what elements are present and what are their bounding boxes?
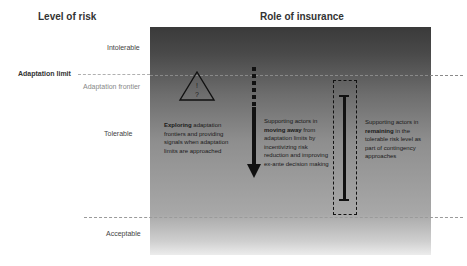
role-of-insurance-heading: Role of insurance <box>260 11 344 22</box>
role-remaining-prefix: Supporting actors in <box>365 119 418 125</box>
arrow-dotted-start <box>252 67 257 109</box>
down-arrow-icon <box>247 164 261 178</box>
triangle-question: ? <box>195 91 199 98</box>
down-arrow-shaft <box>252 107 256 165</box>
adaptation-limit-label: Adaptation limit <box>18 70 71 77</box>
role-moving-away-bold: moving away <box>264 127 302 133</box>
level-of-risk-heading: Level of risk <box>38 11 96 22</box>
acceptable-threshold-line <box>84 217 463 218</box>
role-moving-away-prefix: Supporting actors in <box>264 118 317 124</box>
acceptable-label: Acceptable <box>106 230 141 237</box>
role-moving-away-text: Supporting actors in moving away from ad… <box>264 117 330 168</box>
intolerable-label: Intolerable <box>107 44 140 51</box>
warning-triangle-icon: ! ? <box>178 70 216 102</box>
tolerable-label: Tolerable <box>104 130 132 137</box>
range-bar-bottom <box>339 199 349 201</box>
role-remaining-bold: remaining <box>365 128 394 134</box>
role-exploring-text: Exploring adaptation frontiers and provi… <box>164 121 239 155</box>
range-bar-icon <box>343 95 346 200</box>
role-remaining-text: Supporting actors in remaining in the to… <box>365 118 429 161</box>
triangle-exclamation: ! <box>196 82 198 89</box>
adaptation-frontier-label: Adaptation frontier <box>83 83 140 90</box>
role-exploring-bold: Exploring <box>164 122 192 128</box>
adaptation-limit-line-left <box>78 74 150 75</box>
